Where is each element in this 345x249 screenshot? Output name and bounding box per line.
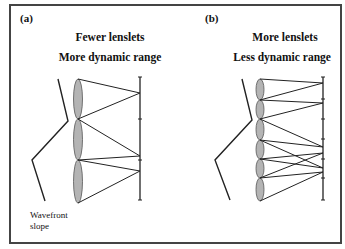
lenslet-b1 xyxy=(256,79,264,100)
panel-a-diagram xyxy=(32,77,142,203)
lenslet-b4 xyxy=(256,140,264,159)
lenslet-b6 xyxy=(256,178,264,201)
lenslet-b3 xyxy=(256,119,264,140)
lenslet-b2 xyxy=(256,100,264,119)
panel-b-diagram xyxy=(215,77,325,201)
lenslet-b5 xyxy=(256,159,264,178)
lenslet-a3 xyxy=(74,160,83,203)
wavefront-a xyxy=(32,79,68,201)
rays-b xyxy=(260,79,323,201)
wavefront-b xyxy=(215,79,252,200)
lenslet-a1 xyxy=(74,79,83,119)
rays-a xyxy=(78,79,140,203)
lenslet-a2 xyxy=(74,119,83,160)
optics-diagram xyxy=(0,0,345,249)
figure: (a) Fewer lenslets More dynamic range Wa… xyxy=(0,0,345,249)
